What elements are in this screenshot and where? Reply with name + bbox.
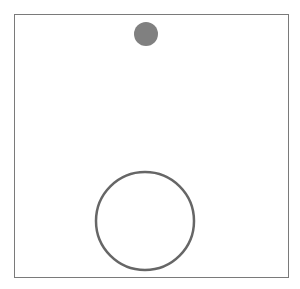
small-filled-circle bbox=[134, 22, 158, 46]
diagram-canvas bbox=[0, 0, 300, 289]
large-outline-circle bbox=[96, 172, 194, 270]
